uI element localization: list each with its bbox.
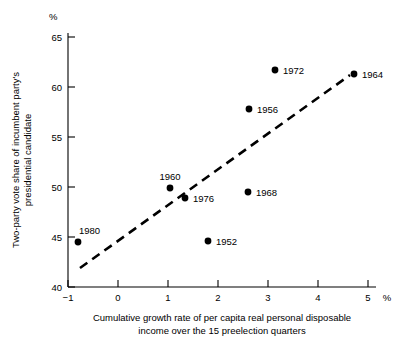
y-tick-label: 60 (51, 82, 62, 93)
data-point-1960 (167, 185, 174, 192)
data-points-group: 19801960197619521968195619721964 (75, 65, 384, 247)
x-tick-label: 5 (365, 292, 370, 303)
y-tick-label: 65 (51, 32, 62, 43)
data-point-label-1956: 1956 (257, 104, 278, 115)
data-point-label-1972: 1972 (283, 65, 304, 76)
x-tick-label: 1 (165, 292, 170, 303)
y-tick-label: 55 (51, 132, 62, 143)
y-axis-unit-label: % (49, 11, 58, 22)
x-tick-label: 2 (215, 292, 220, 303)
data-point-1964 (351, 71, 358, 78)
x-tick-label: 4 (315, 292, 320, 303)
data-point-1956 (246, 106, 253, 113)
x-tick-label: 3 (265, 292, 270, 303)
y-tick-label: 45 (51, 232, 62, 243)
x-axis-ticks (68, 280, 368, 287)
trend-line (80, 75, 350, 268)
data-point-1968 (245, 189, 252, 196)
data-point-label-1964: 1964 (362, 69, 383, 80)
data-point-1952 (205, 238, 212, 245)
y-tick-label: 50 (51, 182, 62, 193)
data-point-label-1952: 1952 (216, 236, 237, 247)
data-point-label-1960: 1960 (159, 171, 180, 182)
x-axis-title-line2: income over the 15 preelection quarters (138, 325, 306, 336)
x-tick-label: 0 (115, 292, 120, 303)
data-point-1976 (182, 195, 189, 202)
y-axis-title-line1: Two-party vote share of incumbent party'… (10, 72, 21, 248)
y-axis-ticks (68, 37, 75, 287)
x-axis-title-line1: Cumulative growth rate of per capita rea… (93, 312, 351, 323)
chart-canvas: % 40 45 50 55 60 65 (0, 0, 409, 348)
data-point-1972 (272, 67, 279, 74)
x-axis-unit-label: % (383, 292, 392, 303)
scatter-plot-figure: % 40 45 50 55 60 65 (0, 0, 409, 348)
y-tick-label: 40 (51, 282, 62, 293)
x-axis-tick-labels: −1 0 1 2 3 4 5 (63, 292, 371, 303)
data-point-label-1976: 1976 (193, 193, 214, 204)
data-point-1980 (75, 239, 82, 246)
data-point-label-1980: 1980 (79, 225, 100, 236)
data-point-label-1968: 1968 (256, 187, 277, 198)
y-axis-tick-labels: 40 45 50 55 60 65 (51, 32, 62, 293)
x-tick-label: −1 (63, 292, 74, 303)
y-axis-title-line2: presidential candidate (22, 114, 33, 206)
